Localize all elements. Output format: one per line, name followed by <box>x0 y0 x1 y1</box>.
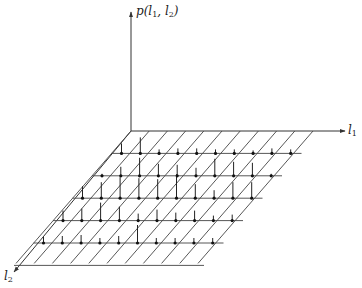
grid-point <box>61 219 64 222</box>
grid-line-l1 <box>143 131 258 263</box>
grid-point <box>137 197 140 200</box>
l1-axis-label: l1 <box>348 124 357 138</box>
grid-point <box>195 152 198 155</box>
vertical-axis-label: p(l1, l2) <box>136 5 179 19</box>
grid-point <box>194 197 197 200</box>
l2-axis-label: l2 <box>4 270 13 284</box>
pmf-diagram <box>0 0 362 288</box>
grid-point <box>158 152 161 155</box>
grid-line-l1 <box>34 131 149 263</box>
grid-point <box>61 241 64 244</box>
grid-point <box>155 241 158 244</box>
grid-point <box>194 174 197 177</box>
grid-point <box>136 241 139 244</box>
grid-point <box>119 197 122 200</box>
grid-point <box>192 241 195 244</box>
grid-point <box>213 197 216 200</box>
grid-point <box>81 197 84 200</box>
grid-line-l1 <box>107 131 222 263</box>
grid-point <box>211 241 214 244</box>
grid-point <box>250 197 253 200</box>
grid-point <box>176 152 179 155</box>
grid-point <box>231 197 234 200</box>
grid-line-l1 <box>125 131 240 263</box>
grid-point <box>270 152 273 155</box>
grid-point <box>137 219 140 222</box>
grid-line-l1 <box>52 131 167 263</box>
grid-line-l1 <box>71 131 186 263</box>
grid-point <box>174 241 177 244</box>
grid-point <box>155 219 158 222</box>
grid-point <box>157 174 160 177</box>
grid-point <box>100 174 103 177</box>
grid-point <box>289 152 292 155</box>
grid-point <box>80 241 83 244</box>
grid-point <box>232 174 235 177</box>
grid-line-l1 <box>16 131 131 263</box>
grid-point <box>42 241 45 244</box>
grid-point <box>213 174 216 177</box>
grid-point <box>117 241 120 244</box>
grid-point <box>231 219 234 222</box>
grid-point <box>99 219 102 222</box>
l2-axis <box>14 131 131 272</box>
grid-point <box>233 152 236 155</box>
grid-point <box>193 219 196 222</box>
grid-point <box>80 219 83 222</box>
grid-point <box>156 197 159 200</box>
grid-point <box>138 174 141 177</box>
grid-line-l1 <box>162 131 277 263</box>
grid-plane <box>14 131 313 265</box>
grid-point <box>251 174 254 177</box>
axes <box>14 12 345 272</box>
grid-line-l1 <box>89 131 204 263</box>
grid-point <box>100 197 103 200</box>
grid-point <box>176 174 179 177</box>
grid-point <box>212 219 215 222</box>
grid-point <box>214 152 217 155</box>
grid-point <box>98 241 101 244</box>
grid-point <box>139 152 142 155</box>
grid-point <box>120 152 123 155</box>
grid-point <box>270 174 273 177</box>
grid-point <box>174 219 177 222</box>
grid-point <box>118 219 121 222</box>
grid-point <box>252 152 255 155</box>
grid-point <box>175 197 178 200</box>
grid-point <box>119 174 122 177</box>
